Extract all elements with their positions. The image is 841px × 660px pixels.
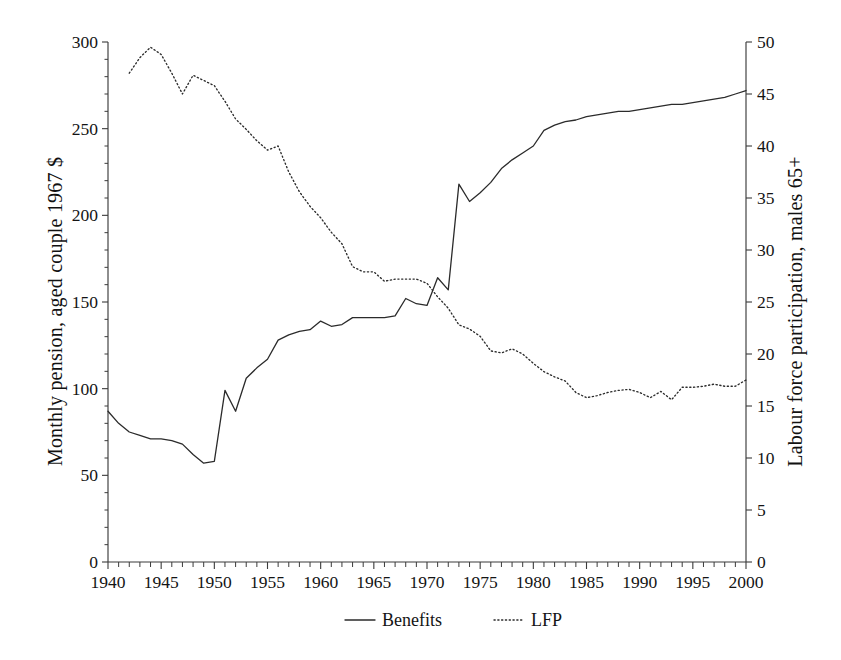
y-axis-right-tick-label: 25 [757,292,775,312]
axis-layer: 0501001502002503000510152025303540455019… [72,32,775,592]
y-axis-right-tick-label: 30 [757,240,775,260]
y-axis-left-tick-label: 100 [72,379,99,399]
x-axis-tick-label: 1965 [356,572,391,592]
x-axis-tick-label: 1950 [197,572,232,592]
x-axis-tick-label: 1975 [463,572,498,592]
legend-label-benefits: Benefits [382,610,442,630]
y-axis-right-tick-label: 15 [757,396,775,416]
y-axis-left-tick-label: 0 [89,552,98,572]
x-axis-tick-label: 1960 [303,572,338,592]
y-axis-right-tick-label: 40 [757,136,775,156]
x-axis-tick-label: 1945 [144,572,179,592]
y-axis-right-tick-label: 50 [757,32,775,52]
x-axis-tick-label: 1940 [91,572,126,592]
chart-legend: BenefitsLFP [345,610,562,630]
series-layer [108,47,746,463]
y-axis-left-tick-label: 300 [72,32,99,52]
y-axis-right-tick-label: 10 [757,448,775,468]
y-axis-right-tick-label: 5 [757,500,766,520]
x-axis-tick-label: 1995 [675,572,710,592]
y-axis-left-tick-label: 200 [72,205,99,225]
x-axis-tick-label: 1990 [622,572,657,592]
y-axis-right-tick-label: 45 [757,84,775,104]
x-axis-tick-label: 1980 [516,572,551,592]
x-axis-tick-label: 1985 [569,572,604,592]
series-line-lfp [129,47,746,400]
y-axis-right-tick-label: 35 [757,188,775,208]
y-axis-right-tick-label: 20 [757,344,775,364]
x-axis-tick-label: 1970 [410,572,445,592]
x-axis-tick-label: 1955 [250,572,285,592]
y-axis-left-tick-label: 50 [81,465,99,485]
x-axis-tick-label: 2000 [729,572,764,592]
y-axis-left-tick-label: 150 [72,292,99,312]
series-line-benefits [108,91,746,464]
y-axis-right-tick-label: 0 [757,552,766,572]
line-chart-plot: 0501001502002503000510152025303540455019… [0,0,841,660]
chart-figure: Monthly pension, aged couple 1967 $ Labo… [0,0,841,660]
y-axis-left-tick-label: 250 [72,119,99,139]
legend-label-lfp: LFP [531,610,562,630]
